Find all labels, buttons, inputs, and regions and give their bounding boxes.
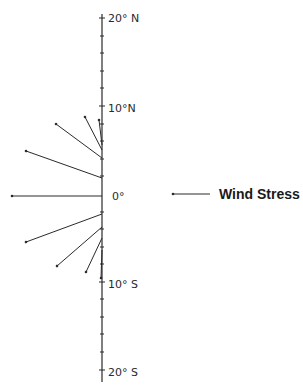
wind-stress-vectors (12, 117, 102, 278)
label-equator: 0° (112, 190, 125, 203)
vector-arrow (26, 214, 102, 242)
vector-arrow (26, 151, 102, 178)
label-20s: 20° S (108, 366, 138, 379)
legend: Wind Stress (173, 186, 300, 202)
label-10n: 10°N (108, 102, 136, 115)
wind-stress-diagram: 20° N 10°N 0° 10° S 20° S Wind Stress (0, 0, 303, 388)
vector-arrow (56, 124, 102, 158)
label-20n: 20° N (108, 12, 139, 25)
legend-label: Wind Stress (219, 186, 300, 202)
vector-arrow (57, 227, 102, 266)
vector-arrow (86, 238, 102, 272)
label-10s: 10° S (108, 278, 138, 291)
